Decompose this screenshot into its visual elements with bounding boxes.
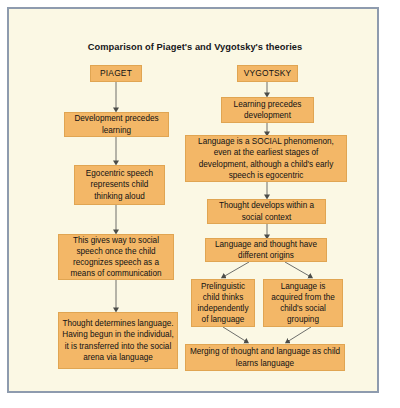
node-label: Language and thought have different orig…: [209, 239, 323, 261]
node-label: Thought determines language. Having begu…: [62, 318, 174, 363]
node-label: Language is a SOCIAL phenomenon, even at…: [189, 136, 343, 181]
node-label: Language is acquired from the child's so…: [267, 281, 339, 326]
figure-title: Comparison of Piaget's and Vygotsky's th…: [9, 42, 381, 52]
node-vygotsky-1[interactable]: Learning precedes development: [221, 97, 314, 123]
page-margin-bottom: [0, 395, 400, 408]
figure-page: Comparison of Piaget's and Vygotsky's th…: [0, 0, 400, 408]
node-vygotsky-2[interactable]: Language is a SOCIAL phenomenon, even at…: [185, 135, 347, 182]
node-label: Egocentric speech represents child think…: [78, 168, 161, 202]
node-vygotsky-6[interactable]: Language is acquired from the child's so…: [263, 279, 343, 327]
node-piaget-1[interactable]: Development precedes learning: [64, 112, 169, 137]
node-piaget-2[interactable]: Egocentric speech represents child think…: [74, 165, 165, 205]
node-vygotsky-3[interactable]: Thought develops within a social context: [207, 199, 326, 224]
node-label: PIAGET: [94, 68, 138, 79]
node-piaget-3[interactable]: This gives way to social speech once the…: [58, 234, 174, 280]
node-label: Merging of thought and language as child…: [189, 346, 341, 368]
node-piaget-header[interactable]: PIAGET: [90, 65, 142, 82]
node-label: Learning precedes development: [225, 99, 310, 121]
page-margin-right: [381, 9, 400, 408]
node-label: This gives way to social speech once the…: [62, 235, 170, 280]
node-vygotsky-5[interactable]: Prelinguistic child thinks independently…: [191, 279, 255, 327]
node-piaget-4[interactable]: Thought determines language. Having begu…: [58, 312, 178, 369]
node-label: Thought develops within a social context: [211, 200, 322, 222]
node-vygotsky-4[interactable]: Language and thought have different orig…: [205, 238, 327, 262]
node-label: Prelinguistic child thinks independently…: [195, 281, 251, 326]
node-label: VYGOTSKY: [241, 68, 294, 79]
node-vygotsky-7[interactable]: Merging of thought and language as child…: [185, 344, 345, 371]
figure-frame: Comparison of Piaget's and Vygotsky's th…: [7, 7, 379, 393]
node-label: Development precedes learning: [68, 113, 165, 135]
node-vygotsky-header[interactable]: VYGOTSKY: [237, 65, 298, 82]
